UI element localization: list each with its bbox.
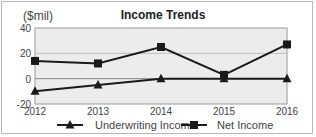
square-marker-icon — [157, 43, 165, 51]
legend-label: Underwriting Income — [95, 119, 196, 131]
legend-label: Net Income — [217, 119, 273, 131]
x-tick-label: 2015 — [213, 106, 236, 117]
y-tick-label: 40 — [20, 23, 32, 34]
y-tick-label: 20 — [20, 48, 32, 59]
x-tick-label: 2014 — [150, 106, 173, 117]
square-marker-icon — [31, 57, 39, 65]
line-chart: 40200-2020122013201420152016Underwriting… — [0, 0, 316, 137]
plot-area — [35, 28, 287, 104]
x-tick-label: 2013 — [87, 106, 110, 117]
x-tick-label: 2016 — [276, 106, 299, 117]
legend-square-icon — [190, 121, 198, 129]
square-marker-icon — [283, 40, 291, 48]
square-marker-icon — [94, 59, 102, 67]
x-tick-label: 2012 — [24, 106, 47, 117]
square-marker-icon — [220, 71, 228, 79]
y-tick-label: 0 — [25, 74, 31, 85]
